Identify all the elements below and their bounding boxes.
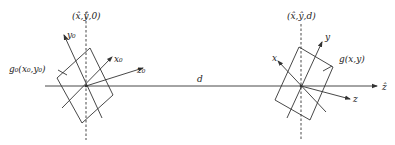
target-origin-point [300, 85, 303, 88]
x0-axis [62, 57, 112, 108]
z0-axis [86, 68, 143, 86]
source-field-pointer [58, 70, 67, 75]
y0-axis [64, 35, 102, 118]
y0-label: y₀ [66, 30, 76, 40]
target-field-label: g(x,y) [339, 54, 365, 64]
propagation-diagram: ẑ d (x̂,ŷ,0) y₀ x₀ z₀ g₀(x₀,y₀) (x̂,ŷ,d) [0, 0, 395, 145]
source-plane: (x̂,ŷ,0) y₀ x₀ z₀ g₀(x₀,y₀) [9, 11, 146, 140]
z-axis [301, 86, 350, 99]
source-origin-point [85, 85, 88, 88]
x0-label: x₀ [114, 54, 123, 64]
target-plane: (x̂,ŷ,d) y x z g(x,y) [272, 11, 365, 140]
z-hat-label: ẑ [381, 82, 387, 92]
target-plane-rectangle [275, 47, 333, 120]
y-label: y [324, 32, 331, 42]
source-field-label: g₀(x₀,y₀) [9, 64, 46, 74]
z-label: z [352, 94, 358, 104]
x-label: x [272, 53, 277, 63]
target-origin-label: (x̂,ŷ,d) [287, 11, 316, 21]
target-field-pointer [323, 66, 332, 71]
source-origin-label: (x̂,ŷ,0) [72, 11, 101, 21]
z0-label: z₀ [136, 65, 146, 75]
distance-label: d [197, 74, 203, 84]
y-axis [287, 42, 322, 118]
